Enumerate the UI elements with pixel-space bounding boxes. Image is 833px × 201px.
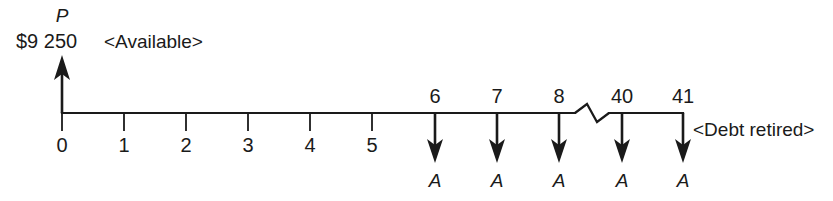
outflow-symbol-period-41: A	[676, 170, 690, 191]
cash-flow-diagram-figure: P $9 250 <Available> 0	[0, 0, 833, 201]
axis-ticks-below	[124, 113, 372, 131]
tick-label-1: 1	[118, 134, 129, 156]
tick-label-8: 8	[553, 85, 564, 107]
tick-label-7: 7	[491, 85, 502, 107]
debt-retired-label: <Debt retired>	[693, 119, 814, 140]
outflow-arrow-period-40	[614, 113, 630, 163]
outflow-symbol-period-7: A	[490, 170, 504, 191]
tick-label-0: 0	[56, 134, 67, 156]
tick-label-41: 41	[672, 85, 694, 107]
tick-label-2: 2	[180, 134, 191, 156]
present-value-symbol-label: P	[56, 5, 69, 26]
tick-label-5: 5	[366, 134, 377, 156]
tick-label-6: 6	[429, 85, 440, 107]
cash-flow-diagram-svg: P $9 250 <Available> 0	[0, 0, 833, 201]
outflow-arrow-period-8	[551, 113, 567, 163]
outflow-arrow-period-6	[427, 113, 443, 163]
outflow-arrow-period-41	[675, 113, 691, 163]
tick-label-4: 4	[304, 134, 315, 156]
outflow-symbol-period-6: A	[428, 170, 442, 191]
available-note-label: <Available>	[104, 31, 203, 52]
inflow-arrow-period-0	[54, 55, 70, 113]
tick-label-3: 3	[242, 134, 253, 156]
outflow-symbol-period-40: A	[615, 170, 629, 191]
present-value-amount-label: $9 250	[16, 30, 77, 52]
outflow-symbol-period-8: A	[552, 170, 566, 191]
tick-label-40: 40	[611, 85, 633, 107]
axis-break-zigzag	[575, 104, 609, 122]
outflow-arrow-period-7	[489, 113, 505, 163]
